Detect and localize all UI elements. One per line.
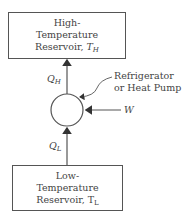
heat-out-label: QH (47, 73, 61, 88)
device-leader-line (80, 77, 112, 97)
high-reservoir-line-3: Reservoir, TH (9, 41, 125, 56)
low-reservoir-line-3: Reservoir, TL (13, 194, 122, 209)
low-reservoir-line-2: Temperature (13, 182, 122, 194)
low-reservoir-line-1: Low- (13, 170, 122, 182)
high-reservoir-line-1: High- (9, 17, 125, 29)
device-circle (51, 94, 83, 126)
high-temperature-reservoir: High- Temperature Reservoir, TH (8, 12, 126, 59)
device-label: Refrigerator or Heat Pump (114, 70, 181, 94)
low-temperature-reservoir: Low- Temperature Reservoir, TL (12, 165, 123, 211)
heat-in-label: QL (49, 140, 61, 155)
high-reservoir-line-2: Temperature (9, 29, 125, 41)
device-label-line-1: Refrigerator (114, 70, 181, 82)
device-label-line-2: or Heat Pump (114, 82, 181, 94)
work-label: W (124, 104, 134, 116)
